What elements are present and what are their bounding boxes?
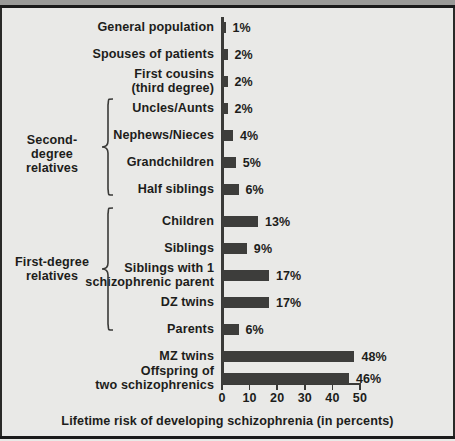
bar: [222, 22, 226, 33]
bar-value-label: 6%: [246, 183, 264, 197]
bar: [222, 243, 247, 254]
bar: [222, 157, 236, 168]
x-axis-title: Lifetime risk of developing schizophreni…: [0, 414, 455, 428]
x-tick-10: [249, 383, 251, 390]
bar: [222, 76, 228, 87]
bar-value-label: 5%: [243, 156, 261, 170]
bar: [222, 130, 233, 141]
group-label-second-degree: Second-degree relatives: [6, 133, 98, 175]
category-label: Grandchildren: [127, 156, 214, 170]
category-label: Half siblings: [138, 183, 214, 197]
bar-value-label: 48%: [361, 350, 386, 364]
bar-value-label: 13%: [265, 215, 290, 229]
bar-value-label: 2%: [235, 48, 253, 62]
bar-value-label: 9%: [254, 242, 272, 256]
category-label: Children: [162, 215, 214, 229]
bar: [222, 184, 239, 195]
x-tick-0: [221, 383, 223, 390]
group-label-first-degree: First-degree relatives: [6, 255, 98, 283]
category-label: Siblings: [164, 242, 214, 256]
category-label: Parents: [167, 323, 214, 337]
chart-figure: 01020304050 1%2%2%2%4%5%6%13%9%17%17%6%4…: [0, 0, 455, 441]
category-label: Offspring of two schizophrenics: [95, 365, 214, 392]
bar: [222, 297, 269, 308]
bar-value-label: 17%: [276, 269, 301, 283]
x-tick-30: [304, 383, 306, 390]
brace-first-degree: [100, 207, 116, 331]
bar: [222, 103, 228, 114]
category-label: General population: [97, 21, 214, 35]
bar: [222, 270, 269, 281]
brace-second-degree: [100, 98, 116, 196]
bar: [222, 373, 349, 384]
bar: [222, 216, 258, 227]
bar-value-label: 6%: [246, 323, 264, 337]
category-label: MZ twins: [159, 350, 214, 364]
plot-area: 01020304050 1%2%2%2%4%5%6%13%9%17%17%6%4…: [0, 0, 455, 441]
category-label: Nephews/Nieces: [113, 129, 214, 143]
bar: [222, 49, 228, 60]
bar-value-label: 2%: [235, 102, 253, 116]
category-label: Spouses of patients: [92, 48, 214, 62]
category-label: Uncles/Aunts: [132, 102, 214, 116]
bar-value-label: 2%: [235, 75, 253, 89]
category-label: First cousins (third degree): [131, 68, 214, 95]
x-tick-40: [332, 383, 334, 390]
x-tick-20: [276, 383, 278, 390]
bar-value-label: 17%: [276, 296, 301, 310]
bar: [222, 351, 354, 362]
category-label: DZ twins: [161, 296, 214, 310]
bar-value-label: 1%: [233, 21, 251, 35]
x-tick-label-50: 50: [340, 391, 380, 405]
bar-value-label: 4%: [240, 129, 258, 143]
bar-value-label: 46%: [356, 372, 381, 386]
bar: [222, 324, 239, 335]
